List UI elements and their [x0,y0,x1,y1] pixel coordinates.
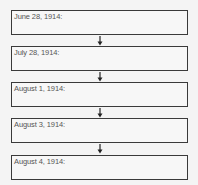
timeline-date-label: July 28, 1914: [14,48,59,57]
timeline-box-4[interactable]: August 3, 1914: [11,118,188,143]
timeline-box-1[interactable]: June 28, 1914: [11,10,188,35]
timeline-box-3[interactable]: August 1, 1914: [11,82,188,107]
down-arrow-icon [97,108,103,118]
down-arrow-icon [97,36,103,46]
timeline-date-label: August 4, 1914: [14,157,65,166]
timeline-date-label: June 28, 1914: [14,12,62,21]
timeline-box-5[interactable]: August 4, 1914: [11,155,188,180]
down-arrow-icon [97,144,103,154]
timeline-date-label: August 3, 1914: [14,120,65,129]
timeline-date-label: August 1, 1914: [14,84,65,93]
down-arrow-icon [97,72,103,82]
timeline-box-2[interactable]: July 28, 1914: [11,46,188,71]
